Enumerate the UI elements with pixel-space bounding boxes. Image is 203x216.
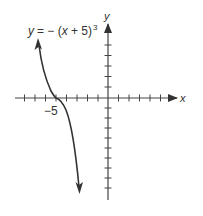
y-axis-label: y: [103, 10, 111, 22]
x-axis: x −5: [15, 92, 186, 118]
equation-exponent: 3: [93, 23, 98, 32]
x-axis-label: x: [179, 92, 186, 104]
cubic-function-graph: x −5 y y= − (x + 5)3: [0, 0, 203, 216]
x-tick-label-neg5: −5: [44, 104, 58, 118]
y-axis: y: [103, 10, 112, 200]
curve-arrow-up-icon: [35, 38, 43, 50]
equation-label: y= − (x + 5)3: [27, 23, 98, 38]
